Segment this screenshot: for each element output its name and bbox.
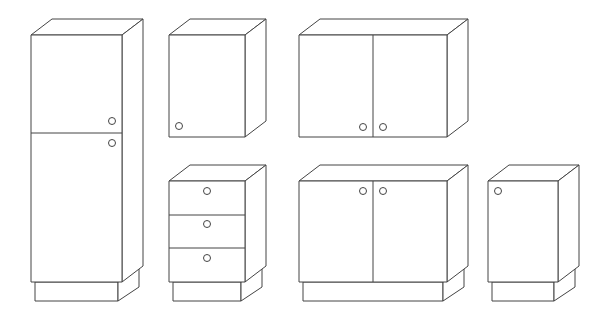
side-face (558, 165, 579, 282)
side-face (245, 19, 266, 137)
drawer-base (169, 165, 266, 301)
wall-cabinet-single (169, 19, 266, 137)
knob-icon (109, 140, 116, 147)
side-face (245, 165, 266, 282)
front-face (31, 35, 122, 282)
knob-icon (204, 255, 211, 262)
top-face (299, 19, 468, 35)
knob-icon (495, 188, 502, 195)
wall-cabinet-double (299, 19, 468, 137)
plinth-front (492, 282, 554, 301)
side-face (447, 19, 468, 137)
knob-icon (380, 188, 387, 195)
side-face (447, 165, 468, 282)
front-face (488, 181, 558, 282)
tall-cabinet (31, 19, 143, 301)
front-face (169, 35, 245, 137)
plinth-front (303, 282, 443, 301)
cabinet-drawing (0, 0, 608, 318)
plinth-front (173, 282, 241, 301)
knob-icon (204, 221, 211, 228)
knob-icon (360, 124, 367, 131)
knob-icon (380, 124, 387, 131)
base-cabinet-single (488, 165, 579, 301)
knob-icon (176, 123, 183, 130)
knob-icon (360, 188, 367, 195)
knob-icon (204, 188, 211, 195)
top-face (299, 165, 468, 181)
knob-icon (109, 118, 116, 125)
base-cabinet-double (299, 165, 468, 301)
front-face (169, 181, 245, 282)
plinth-front (35, 282, 118, 301)
side-face (122, 19, 143, 282)
